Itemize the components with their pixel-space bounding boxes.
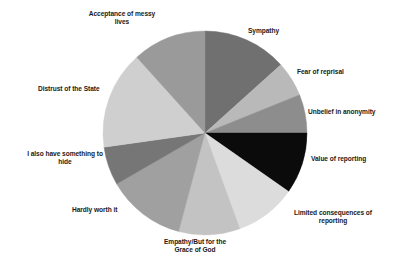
pie-label-empathy-but-for-the-grace-of-god: Empathy/But for the Grace of God [138,238,252,255]
pie-label-fear-of-reprisal: Fear of reprisal [297,68,397,76]
pie-label-distrust-of-the-state: Distrust of the State [38,85,142,93]
pie-chart-figure: Acceptance of messy lives Sympathy Fear … [0,0,405,273]
pie-label-acceptance-of-messy-lives: Acceptance of messy lives [62,10,182,27]
pie-label-i-also-have-something-to-hide: I also have something to hide [10,150,120,167]
pie-slice-group [103,31,307,235]
pie-label-unbelief-in-anonymity: Unbelief in anonymity [308,108,404,116]
pie-label-hardly-worth-it: Hardly worth it [72,206,162,214]
pie-label-limited-consequences-of-reporting: Limited consequences of reporting [272,209,394,226]
pie-label-value-of-reporting: Value of reporting [311,155,403,163]
pie-chart-svg [0,0,405,273]
pie-label-sympathy: Sympathy [248,27,348,35]
